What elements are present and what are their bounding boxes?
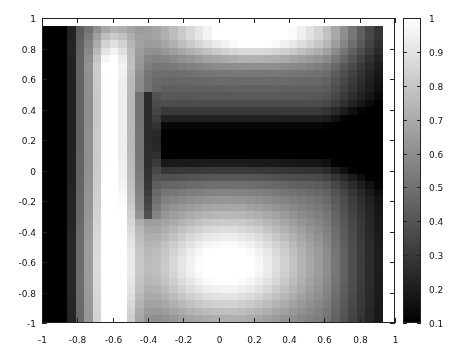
x-tick-label: -0.4 — [134, 335, 164, 345]
y-tick-label: 1 — [6, 14, 36, 24]
y-tick-label: -0.6 — [6, 258, 36, 268]
y-tick-label: -1 — [6, 319, 36, 329]
colorbar-tick-label: 0.3 — [429, 251, 459, 261]
x-tick-label: -0.6 — [99, 335, 129, 345]
y-tick-label: 0 — [6, 167, 36, 177]
colorbar-tick-label: 0.2 — [429, 285, 459, 295]
heatmap-chart: -1-0.8-0.6-0.4-0.200.20.40.60.8110.80.60… — [0, 0, 462, 353]
x-tick-label: 1 — [381, 335, 411, 345]
colorbar-tick-label: 0.8 — [429, 82, 459, 92]
x-tick-label: -0.8 — [63, 335, 93, 345]
colorbar-tick-label: 0.7 — [429, 116, 459, 126]
y-tick-label: 0.4 — [6, 106, 36, 116]
y-tick-label: 0.6 — [6, 75, 36, 85]
x-tick-label: 0.2 — [240, 335, 270, 345]
y-tick-label: -0.2 — [6, 197, 36, 207]
x-tick-label: 0.6 — [310, 335, 340, 345]
x-tick-label: 0 — [205, 335, 235, 345]
axis-ticks — [0, 0, 462, 353]
colorbar-tick-label: 0.1 — [429, 319, 459, 329]
x-tick-label: -1 — [28, 335, 58, 345]
y-tick-label: -0.8 — [6, 289, 36, 299]
x-tick-label: -0.2 — [169, 335, 199, 345]
x-tick-label: 0.8 — [346, 335, 376, 345]
x-tick-label: 0.4 — [275, 335, 305, 345]
y-tick-label: 0.2 — [6, 136, 36, 146]
y-tick-label: 0.8 — [6, 45, 36, 55]
colorbar-tick-label: 0.6 — [429, 150, 459, 160]
colorbar-tick-label: 0.5 — [429, 183, 459, 193]
colorbar-tick-label: 0.9 — [429, 48, 459, 58]
y-tick-label: -0.4 — [6, 228, 36, 238]
colorbar-tick-label: 1 — [429, 14, 459, 24]
colorbar-tick-label: 0.4 — [429, 217, 459, 227]
